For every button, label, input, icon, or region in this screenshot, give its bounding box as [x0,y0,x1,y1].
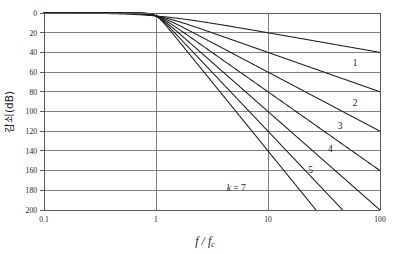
y-tick-label: 20 [29,29,37,38]
x-tick-label: 10 [264,215,272,224]
butterworth-attenuation-chart: 0204060801001201401601802000.1110100 123… [0,0,397,254]
y-tick-label: 100 [26,107,38,116]
y-tick-label: 160 [26,166,38,175]
y-axis-title: 감쇠(dB) [3,91,15,133]
chart-svg: 0204060801001201401601802000.1110100 123… [0,0,397,254]
curve-label-3: 3 [338,121,343,131]
x-tick-label: 1 [154,215,158,224]
curve-label-4: 4 [328,144,333,154]
curve-label-1: 1 [353,58,358,68]
y-tick-label: 60 [29,68,37,77]
y-tick-label: 0 [33,9,37,18]
curve-label-2: 2 [353,98,358,108]
tick-label-layer: 0204060801001201401601802000.1110100 [26,9,386,224]
curve-label-k-equals-7: k = 7 [227,183,246,193]
y-tick-label: 200 [26,206,38,215]
x-tick-label: 0.1 [39,215,49,224]
curve-label-5: 5 [308,165,313,175]
x-axis-title: f / fc [195,234,215,249]
x-tick-label: 100 [374,215,386,224]
y-tick-label: 140 [26,147,38,156]
y-tick-label: 180 [26,186,38,195]
y-tick-label: 40 [29,48,37,57]
y-tick-label: 80 [29,88,37,97]
y-tick-label: 120 [26,127,38,136]
